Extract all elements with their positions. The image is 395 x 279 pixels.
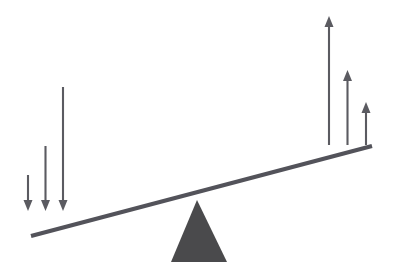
diagram-canvas xyxy=(0,0,395,279)
seesaw-diagram xyxy=(0,0,395,279)
